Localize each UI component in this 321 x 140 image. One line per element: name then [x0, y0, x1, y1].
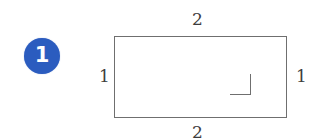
bottom-side-length-label: 2: [192, 124, 203, 140]
item-number-badge: 1: [24, 38, 60, 74]
top-side-length-label: 2: [192, 11, 203, 28]
item-number-label: 1: [35, 45, 50, 66]
right-angle-marker-icon: [230, 74, 251, 95]
right-side-length-label: 1: [296, 68, 307, 85]
left-side-length-label: 1: [99, 68, 110, 85]
geometry-figure: 1 2 1 2 1: [0, 0, 321, 140]
rectangle-shape: [114, 36, 287, 118]
